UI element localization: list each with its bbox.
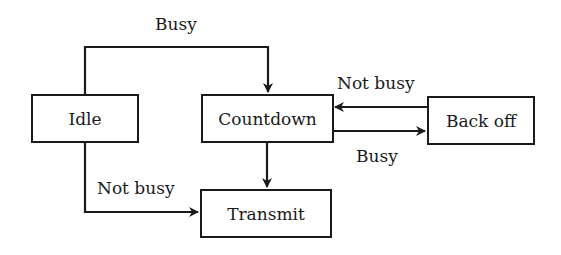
state-transmit-label: Transmit xyxy=(227,204,305,224)
state-countdown: Countdown xyxy=(201,94,334,143)
state-idle: Idle xyxy=(31,94,139,143)
edge-idle-to-transmit xyxy=(85,142,198,212)
state-backoff: Back off xyxy=(427,96,535,145)
edge-label-idle-to-transmit: Not busy xyxy=(97,178,175,198)
edge-label-idle-to-countdown: Busy xyxy=(155,14,197,34)
state-countdown-label: Countdown xyxy=(218,109,317,129)
state-backoff-label: Back off xyxy=(446,111,516,131)
edge-label-countdown-to-backoff: Busy xyxy=(356,146,398,166)
state-idle-label: Idle xyxy=(68,109,101,129)
edge-label-backoff-to-countdown: Not busy xyxy=(337,73,415,93)
edge-idle-to-countdown xyxy=(85,47,268,94)
state-transmit: Transmit xyxy=(200,189,332,238)
